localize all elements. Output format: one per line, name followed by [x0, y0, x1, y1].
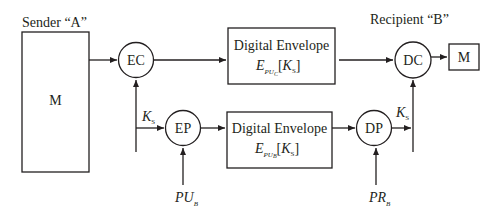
recipient-label: Recipient “B”	[370, 12, 449, 27]
digital-envelope-diagram: Sender “A” M EC Digital Envelope EPUC[KS…	[0, 0, 500, 221]
prb-label: PRB	[368, 190, 391, 208]
ks-sender-label: KS	[141, 109, 155, 126]
sender-label: Sender “A”	[22, 15, 87, 30]
dp-label: DP	[365, 121, 383, 136]
envelope-bottom-title: Digital Envelope	[232, 121, 327, 136]
envelope-top-title: Digital Envelope	[234, 38, 329, 53]
dc-label: DC	[403, 53, 422, 68]
sender-message-label: M	[49, 93, 62, 108]
recipient-message-label: M	[458, 50, 471, 65]
envelope-top-box	[228, 28, 335, 84]
pub-label: PUB	[174, 190, 199, 208]
ec-label: EC	[127, 53, 145, 68]
envelope-bottom-expression: EPUB[KS]	[254, 141, 299, 159]
ks-recipient-label: KS	[395, 105, 409, 122]
ep-label: EP	[175, 121, 192, 136]
envelope-top-expression: EPUC[KS]	[255, 58, 301, 77]
